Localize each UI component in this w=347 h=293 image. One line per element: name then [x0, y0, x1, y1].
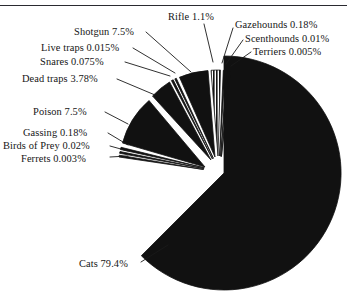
leader-line-shotgun [146, 32, 191, 72]
slice-label-terriers: Terriers 0.005% [253, 46, 321, 57]
slice-label-gazehounds: Gazehounds 0.18% [235, 19, 317, 30]
slice-label-shotgun: Shotgun 7.5% [74, 26, 134, 37]
slice-label-live-traps: Live traps 0.015% [41, 42, 119, 53]
slice-label-poison: Poison 7.5% [33, 106, 87, 117]
slice-label-snares: Snares 0.075% [40, 56, 104, 67]
leader-line-snares [125, 62, 170, 76]
slice-label-dead-traps: Dead traps 3.78% [22, 73, 98, 84]
leader-line-rifle [204, 24, 213, 62]
slice-label-cats: Cats 79.4% [79, 258, 128, 269]
slice-label-ferrets: Ferrets 0.003% [21, 153, 86, 164]
pie-chart-figure: Shotgun 7.5% Rifle 1.1% Gazehounds 0.18%… [0, 0, 347, 293]
slice-label-scenthounds: Scenthounds 0.01% [245, 33, 329, 44]
leader-line-poison [105, 112, 128, 124]
slice-label-gassing: Gassing 0.18% [23, 127, 87, 138]
slice-label-birds-of-prey: Birds of Prey 0.02% [3, 140, 90, 151]
leader-line-dead-traps [117, 79, 155, 95]
slice-label-rifle: Rifle 1.1% [168, 11, 214, 22]
